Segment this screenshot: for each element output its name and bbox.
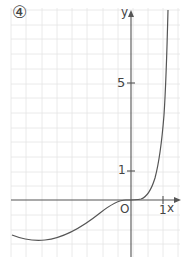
function-curve: [12, 10, 168, 240]
y-tick-label-5: 5: [117, 76, 125, 89]
x-axis-arrow-icon: [174, 197, 181, 203]
x-tick-label-1: 1: [159, 204, 167, 216]
graph: [0, 0, 183, 257]
grid: [11, 8, 180, 257]
panel-label: ④: [12, 4, 27, 21]
origin-label: O: [120, 203, 129, 215]
y-axis-label: y: [121, 6, 128, 18]
y-tick-label-1: 1: [118, 164, 126, 176]
x-axis-label: x: [167, 202, 174, 214]
